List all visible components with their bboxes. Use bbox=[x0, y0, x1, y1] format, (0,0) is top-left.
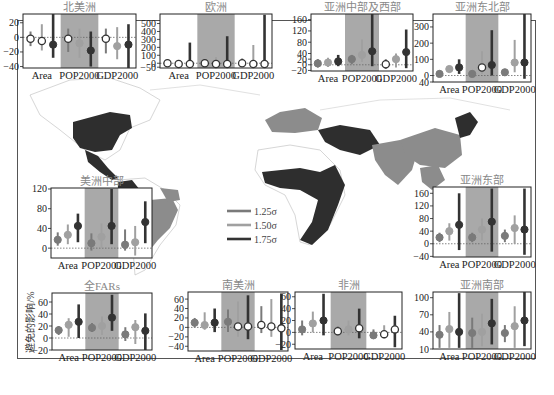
data-point bbox=[50, 41, 57, 48]
y-tick-label: −20 bbox=[3, 46, 19, 57]
data-point bbox=[392, 56, 399, 63]
data-point bbox=[87, 47, 94, 54]
y-tick-label: 20 bbox=[281, 315, 291, 326]
panel-north-america: 北美洲200−20−40AreaPOP2000GDP2000 bbox=[3, 1, 138, 81]
data-point bbox=[164, 60, 171, 67]
panel-all-fars: 全FARs6040200−20AreaPOP2000GDP2000 bbox=[32, 279, 156, 363]
data-point bbox=[175, 60, 182, 67]
y-tick-label: 40 bbox=[281, 303, 291, 314]
y-tick-label: −40 bbox=[413, 251, 429, 262]
y-tick-label: 40 bbox=[37, 223, 47, 234]
y-tick-label: 300 bbox=[414, 21, 429, 32]
data-point bbox=[98, 233, 105, 240]
data-point bbox=[488, 320, 495, 327]
legend-label: 1.50σ bbox=[254, 220, 278, 231]
x-category-label: GDP2000 bbox=[250, 353, 292, 364]
x-category-label: GDP2000 bbox=[494, 84, 536, 95]
x-category-label: Area bbox=[439, 84, 460, 95]
data-point bbox=[334, 328, 341, 335]
y-tick-label: 80 bbox=[419, 213, 429, 224]
data-point bbox=[469, 234, 476, 241]
data-point bbox=[356, 325, 363, 332]
data-point bbox=[191, 319, 198, 326]
y-tick-label: 60 bbox=[281, 291, 291, 302]
x-category-label: Area bbox=[58, 260, 79, 271]
data-point bbox=[132, 324, 139, 331]
x-category-label: Area bbox=[303, 351, 324, 362]
y-tick-label: 40 bbox=[38, 309, 48, 320]
data-point bbox=[446, 65, 453, 72]
y-tick-label: −40 bbox=[3, 61, 19, 72]
data-point bbox=[478, 328, 485, 335]
x-category-label: GDP2000 bbox=[494, 259, 536, 270]
panel-northeast-asia: 亚洲东北部300200100040AreaPOP2000GDP2000 bbox=[414, 0, 536, 95]
y-tick-label: 0 bbox=[42, 243, 47, 254]
y-tick-label: 40 bbox=[419, 77, 429, 88]
y-tick-label: 10 bbox=[419, 344, 429, 355]
data-point bbox=[501, 329, 508, 336]
data-point bbox=[456, 221, 463, 228]
data-point bbox=[521, 226, 528, 233]
data-point bbox=[239, 60, 246, 67]
data-point bbox=[108, 314, 115, 321]
data-point bbox=[358, 51, 365, 58]
panel-south-asia: 亚洲南部100704010AreaPOP2000GDP2000 bbox=[414, 278, 536, 362]
data-point bbox=[436, 234, 443, 241]
panel-title: 北美洲 bbox=[63, 1, 96, 13]
data-point bbox=[348, 56, 355, 63]
data-point bbox=[320, 317, 327, 324]
panel-title: 非洲 bbox=[338, 279, 360, 291]
panel-africa: 非洲6040200−20AreaPOP2000GDP2000 bbox=[275, 279, 405, 362]
data-point bbox=[74, 222, 81, 229]
data-point bbox=[299, 326, 306, 333]
data-point bbox=[102, 35, 109, 42]
panel-title: 亚洲东北部 bbox=[455, 0, 510, 13]
data-point bbox=[65, 321, 72, 328]
data-point bbox=[501, 69, 508, 76]
data-point bbox=[250, 60, 257, 67]
y-tick-label: 120 bbox=[32, 183, 47, 194]
data-point bbox=[76, 40, 83, 47]
data-point bbox=[488, 61, 495, 68]
data-point bbox=[88, 240, 95, 247]
data-point bbox=[381, 331, 388, 338]
data-point bbox=[370, 332, 377, 339]
y-tick-label: 0 bbox=[43, 333, 48, 344]
y-tick-label: 20 bbox=[9, 17, 19, 28]
data-point bbox=[27, 35, 34, 42]
panel-central-west-asia: 亚洲中部及西部1601208040200−20AreaPOP2000GDP200… bbox=[291, 0, 417, 84]
y-tick-label: 0 bbox=[286, 327, 291, 338]
x-category-label: Area bbox=[58, 352, 79, 363]
x-category-label: POP2000 bbox=[196, 70, 236, 81]
y-tick-label: 80 bbox=[297, 37, 307, 48]
data-point bbox=[224, 318, 231, 325]
data-point bbox=[121, 241, 128, 248]
data-point bbox=[469, 70, 476, 77]
x-category-label: Area bbox=[32, 70, 53, 81]
figure: 1.25σ1.50σ1.75σ 北美洲200−20−40AreaPOP2000G… bbox=[0, 0, 554, 395]
data-point bbox=[521, 317, 528, 324]
y-tick-label: 160 bbox=[414, 188, 429, 199]
data-point bbox=[478, 226, 485, 233]
data-point bbox=[142, 327, 149, 334]
y-tick-label: 100 bbox=[414, 292, 429, 303]
legend-label: 1.25σ bbox=[254, 206, 278, 217]
x-category-label: GDP2000 bbox=[114, 260, 156, 271]
data-point bbox=[456, 328, 463, 335]
data-point bbox=[186, 60, 193, 67]
data-point bbox=[258, 321, 265, 328]
data-point bbox=[369, 48, 376, 55]
map-region-central-asia bbox=[318, 125, 380, 155]
data-point bbox=[345, 326, 352, 333]
data-point bbox=[456, 64, 463, 71]
y-tick-label: 0 bbox=[14, 32, 19, 43]
y-tick-label: −20 bbox=[275, 339, 291, 350]
map-region-northeast-asia bbox=[455, 112, 478, 138]
data-point bbox=[469, 329, 476, 336]
data-point bbox=[521, 59, 528, 66]
data-point bbox=[314, 60, 321, 67]
data-point bbox=[142, 218, 149, 225]
y-tick-label: 100 bbox=[414, 54, 429, 65]
x-category-label: Area bbox=[318, 73, 339, 84]
y-tick-label: −50 bbox=[140, 62, 156, 73]
